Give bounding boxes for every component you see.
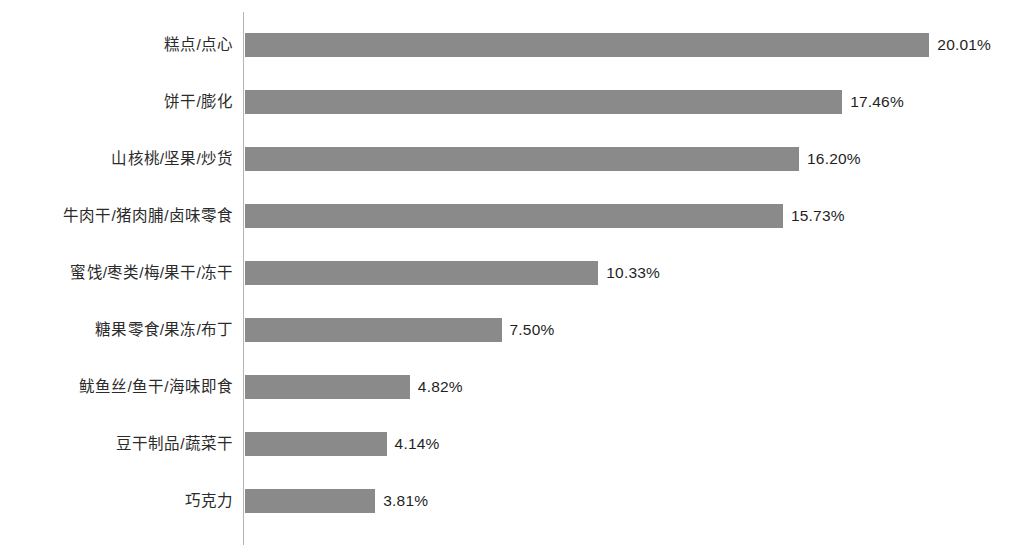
bar-row: 饼干/膨化17.46%: [0, 90, 1021, 114]
bar-value-label: 4.14%: [395, 432, 440, 456]
bar-value-label: 7.50%: [510, 318, 555, 342]
bar-value-label: 15.73%: [791, 204, 845, 228]
category-label: 糖果零食/果冻/布丁: [0, 318, 233, 342]
category-label: 糕点/点心: [0, 33, 233, 57]
bar-row: 山核桃/坚果/炒货16.20%: [0, 147, 1021, 171]
bar-chart: 糕点/点心20.01%饼干/膨化17.46%山核桃/坚果/炒货16.20%牛肉干…: [0, 0, 1021, 553]
bar-value-label: 16.20%: [807, 147, 861, 171]
bar-row: 蜜饯/枣类/梅/果干/冻干10.33%: [0, 261, 1021, 285]
category-label: 巧克力: [0, 489, 233, 513]
category-label: 牛肉干/猪肉脯/卤味零食: [0, 204, 233, 228]
bar-row: 牛肉干/猪肉脯/卤味零食15.73%: [0, 204, 1021, 228]
bar-value-label: 4.82%: [418, 375, 463, 399]
bar-value-label: 10.33%: [606, 261, 660, 285]
category-label: 蜜饯/枣类/梅/果干/冻干: [0, 261, 233, 285]
bar-row: 巧克力3.81%: [0, 489, 1021, 513]
bar-row: 鱿鱼丝/鱼干/海味即食4.82%: [0, 375, 1021, 399]
bar: [245, 147, 799, 171]
bar: [245, 204, 783, 228]
bar-value-label: 20.01%: [937, 33, 991, 57]
bar: [245, 90, 842, 114]
bar: [245, 33, 929, 57]
category-label: 鱿鱼丝/鱼干/海味即食: [0, 375, 233, 399]
category-label: 豆干制品/蔬菜干: [0, 432, 233, 456]
bar-value-label: 3.81%: [383, 489, 428, 513]
category-label: 饼干/膨化: [0, 90, 233, 114]
bar-row: 豆干制品/蔬菜干4.14%: [0, 432, 1021, 456]
bar: [245, 318, 502, 342]
bar-row: 糕点/点心20.01%: [0, 33, 1021, 57]
bar-value-label: 17.46%: [850, 90, 904, 114]
bar: [245, 489, 375, 513]
bar: [245, 432, 387, 456]
bar: [245, 261, 598, 285]
bar-row: 糖果零食/果冻/布丁7.50%: [0, 318, 1021, 342]
bar: [245, 375, 410, 399]
category-label: 山核桃/坚果/炒货: [0, 147, 233, 171]
